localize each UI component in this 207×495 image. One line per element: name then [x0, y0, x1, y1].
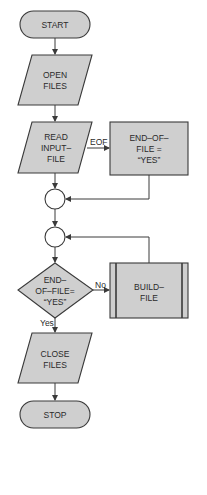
close-label-1: CLOSE	[41, 349, 70, 359]
node-close-files: CLOSE FILES	[18, 333, 92, 383]
read-label-3: FILE	[47, 154, 65, 164]
edge-build-conn2	[66, 237, 149, 263]
build-label-1: BUILD–	[134, 282, 164, 292]
close-label-2: FILES	[43, 360, 67, 370]
open-files-label-2: FILES	[43, 81, 67, 91]
read-label-2: INPUT–	[41, 143, 72, 153]
connector-1	[45, 189, 65, 209]
node-read-input-file: READ INPUT– FILE	[18, 122, 92, 173]
build-label-2: FILE	[140, 293, 158, 303]
io-shape	[18, 55, 92, 105]
start-label: START	[41, 20, 68, 30]
decision-label-1: END–	[44, 275, 67, 285]
edge-label-eof: EOF	[90, 137, 107, 147]
set-eof-label-1: END–OF–	[129, 133, 168, 143]
edge-label-no: No	[95, 280, 106, 290]
connector-2	[45, 227, 65, 247]
node-open-files: OPEN FILES	[18, 55, 92, 105]
node-set-eof: END–OF– FILE = “YES”	[110, 122, 188, 175]
open-files-label-1: OPEN	[43, 70, 67, 80]
node-stop: STOP	[20, 401, 90, 428]
set-eof-label-2: FILE =	[136, 144, 161, 154]
decision-label-2: OF–FILE=	[35, 286, 74, 296]
stop-label: STOP	[44, 410, 67, 420]
node-build-file: BUILD– FILE	[110, 263, 188, 318]
edge-eof-conn1	[66, 175, 149, 199]
set-eof-label-3: “YES”	[138, 155, 161, 165]
edge-label-yes: Yes	[40, 318, 54, 328]
flowchart: START OPEN FILES READ INPUT– FILE EOF EN…	[0, 0, 207, 495]
decision-label-3: “YES”	[44, 297, 67, 307]
read-label-1: READ	[44, 132, 68, 142]
node-start: START	[20, 11, 90, 38]
node-eof-decision: END– OF–FILE= “YES”	[18, 263, 93, 318]
